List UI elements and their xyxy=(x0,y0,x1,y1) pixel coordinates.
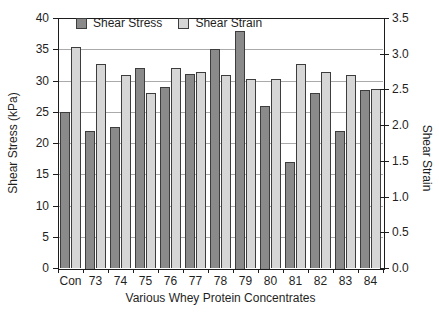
x-category-label-81: 81 xyxy=(283,274,308,288)
bar-shear-strain-79 xyxy=(246,79,256,268)
bar-shear-strain-Con xyxy=(71,47,81,268)
bar-shear-stress-84 xyxy=(360,90,370,268)
x-boundary-tick-10 xyxy=(308,269,309,273)
shear-stress-swatch-icon xyxy=(76,18,87,29)
x-boundary-tick-0 xyxy=(58,269,59,273)
bar-shear-strain-76 xyxy=(171,68,181,268)
chart-legend: Shear Stress Shear Strain xyxy=(76,16,262,30)
bar-shear-strain-80 xyxy=(271,79,281,268)
shear-strain-swatch-icon xyxy=(178,18,189,29)
x-axis-title: Various Whey Protein Concentrates xyxy=(126,291,316,305)
x-boundary-tick-6 xyxy=(208,269,209,273)
left-tick-label-15: 15 xyxy=(19,167,49,181)
left-tick-label-10: 10 xyxy=(19,199,49,213)
x-category-label-76: 76 xyxy=(158,274,183,288)
right-tick-label-0.0: 0.0 xyxy=(392,261,409,275)
right-tick-3.5 xyxy=(380,18,389,19)
bar-chart-figure: Shear Stress Shear Strain Shear Stress (… xyxy=(0,0,439,321)
right-tick-1.5 xyxy=(380,161,389,162)
bar-shear-stress-83 xyxy=(335,131,345,269)
left-tick-label-25: 25 xyxy=(19,105,49,119)
left-tick-20 xyxy=(53,143,58,144)
left-tick-label-20: 20 xyxy=(19,136,49,150)
right-tick-label-3.5: 3.5 xyxy=(392,11,409,25)
bar-shear-strain-81 xyxy=(296,64,306,268)
legend-label-shear-stress: Shear Stress xyxy=(93,16,162,30)
left-tick-label-40: 40 xyxy=(19,11,49,25)
bar-shear-stress-78 xyxy=(210,49,220,268)
x-boundary-tick-3 xyxy=(133,269,134,273)
x-category-label-77: 77 xyxy=(183,274,208,288)
right-axis-title: Shear Strain xyxy=(420,125,434,192)
left-tick-40 xyxy=(53,18,58,19)
x-boundary-tick-1 xyxy=(83,269,84,273)
right-tick-label-2.5: 2.5 xyxy=(392,82,409,96)
bar-shear-strain-77 xyxy=(196,72,206,268)
x-category-label-78: 78 xyxy=(208,274,233,288)
left-tick-label-35: 35 xyxy=(19,42,49,56)
right-tick-3.0 xyxy=(380,54,389,55)
left-tick-label-0: 0 xyxy=(19,261,49,275)
x-boundary-tick-5 xyxy=(183,269,184,273)
legend-label-shear-strain: Shear Strain xyxy=(195,16,262,30)
left-tick-35 xyxy=(53,49,58,50)
x-category-label-Con: Con xyxy=(58,274,83,288)
bar-shear-strain-84 xyxy=(371,89,381,268)
x-category-label-84: 84 xyxy=(358,274,383,288)
x-boundary-tick-9 xyxy=(283,269,284,273)
x-boundary-tick-8 xyxy=(258,269,259,273)
bar-shear-strain-73 xyxy=(96,64,106,268)
right-tick-0.5 xyxy=(380,232,389,233)
bar-shear-stress-73 xyxy=(85,131,95,269)
right-tick-0.0 xyxy=(380,268,389,269)
gridline-35 xyxy=(59,49,383,50)
right-tick-label-1.0: 1.0 xyxy=(392,190,409,204)
bar-shear-stress-76 xyxy=(160,87,170,268)
x-boundary-tick-11 xyxy=(333,269,334,273)
left-tick-25 xyxy=(53,112,58,113)
x-boundary-tick-4 xyxy=(158,269,159,273)
bar-shear-stress-82 xyxy=(310,93,320,268)
bar-shear-stress-80 xyxy=(260,106,270,269)
bar-shear-strain-74 xyxy=(121,75,131,268)
right-tick-1.0 xyxy=(380,197,389,198)
bar-shear-stress-81 xyxy=(285,162,295,268)
x-category-label-75: 75 xyxy=(133,274,158,288)
x-boundary-tick-2 xyxy=(108,269,109,273)
bar-shear-strain-83 xyxy=(346,75,356,268)
left-tick-15 xyxy=(53,174,58,175)
left-axis-title: Shear Stress (kPa) xyxy=(6,92,20,193)
right-tick-2.0 xyxy=(380,125,389,126)
right-tick-label-3.0: 3.0 xyxy=(392,47,409,61)
x-category-label-73: 73 xyxy=(83,274,108,288)
x-boundary-tick-7 xyxy=(233,269,234,273)
bar-shear-stress-77 xyxy=(185,74,195,268)
x-category-label-82: 82 xyxy=(308,274,333,288)
bar-shear-stress-74 xyxy=(110,127,120,268)
bar-shear-strain-78 xyxy=(221,75,231,268)
bar-shear-stress-Con xyxy=(60,112,70,268)
x-boundary-tick-12 xyxy=(358,269,359,273)
left-tick-5 xyxy=(53,237,58,238)
x-boundary-tick-13 xyxy=(383,269,384,273)
left-tick-10 xyxy=(53,206,58,207)
left-tick-label-5: 5 xyxy=(19,230,49,244)
x-category-label-83: 83 xyxy=(333,274,358,288)
x-category-label-74: 74 xyxy=(108,274,133,288)
left-tick-30 xyxy=(53,81,58,82)
x-category-label-79: 79 xyxy=(233,274,258,288)
right-tick-label-0.5: 0.5 xyxy=(392,225,409,239)
left-tick-label-30: 30 xyxy=(19,74,49,88)
bar-shear-stress-79 xyxy=(235,31,245,269)
right-tick-2.5 xyxy=(380,89,389,90)
bar-shear-stress-75 xyxy=(135,68,145,268)
bar-shear-strain-82 xyxy=(321,72,331,268)
right-tick-label-1.5: 1.5 xyxy=(392,154,409,168)
bar-shear-strain-75 xyxy=(146,93,156,268)
x-category-label-80: 80 xyxy=(258,274,283,288)
right-tick-label-2.0: 2.0 xyxy=(392,118,409,132)
